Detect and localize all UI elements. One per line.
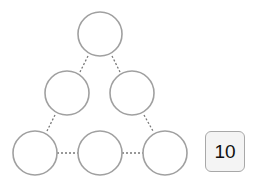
connector-top-midleft [80,56,88,72]
target-sum-value: 10 [214,141,235,163]
circle-bottom-middle[interactable] [78,131,122,175]
target-sum-box: 10 [205,131,245,172]
connector-top-midright [112,56,120,72]
circle-mid-right[interactable] [110,71,154,115]
connector-midleft-bottomleft [47,115,55,131]
circle-bottom-left[interactable] [13,131,57,175]
circle-top[interactable] [78,12,122,56]
circle-mid-left[interactable] [45,71,89,115]
connector-midright-bottomright [144,115,153,131]
circle-bottom-right[interactable] [143,131,187,175]
